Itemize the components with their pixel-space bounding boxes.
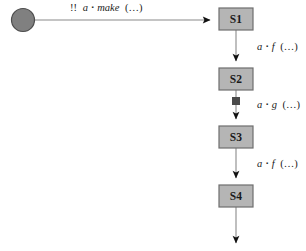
label-message: g xyxy=(272,99,277,110)
state-diagram: S1 S2 S3 S4 !! a ▪ make (…) a ▪ f (…) xyxy=(0,0,306,251)
label-separator-icon: ▪ xyxy=(266,160,268,166)
label-separator-icon: ▪ xyxy=(266,101,268,107)
initial-state-node[interactable] xyxy=(12,9,35,32)
label-args: (…) xyxy=(125,2,143,14)
label-separator-icon: ▪ xyxy=(266,43,268,49)
label-separator-icon: ▪ xyxy=(92,4,94,10)
diagram-canvas: S1 S2 S3 S4 !! a ▪ make (…) a ▪ f (…) xyxy=(0,0,306,251)
label-args: (…) xyxy=(283,99,301,111)
transition-label-s2-to-s3: a ▪ g (…) xyxy=(257,98,301,111)
transition-label-s3-to-s4: a ▪ f (…) xyxy=(257,157,298,170)
label-receiver: a xyxy=(257,158,262,169)
state-node-s4[interactable]: S4 xyxy=(219,185,253,207)
state-label: S1 xyxy=(230,13,243,25)
label-message: f xyxy=(272,41,277,52)
state-label: S2 xyxy=(230,73,243,85)
label-receiver: a xyxy=(257,99,262,110)
label-message: f xyxy=(272,158,277,169)
label-receiver: a xyxy=(83,2,88,13)
label-message: make xyxy=(97,2,119,13)
state-node-s3[interactable]: S3 xyxy=(219,126,253,148)
transition-stop-marker-icon xyxy=(232,97,240,105)
transition-label-s1-to-s2: a ▪ f (…) xyxy=(257,40,298,53)
transition-label-start-to-s1: !! a ▪ make (…) xyxy=(70,1,143,14)
state-node-s2[interactable]: S2 xyxy=(219,68,253,90)
state-label: S4 xyxy=(230,190,243,202)
label-args: (…) xyxy=(280,41,298,53)
label-args: (…) xyxy=(280,158,298,170)
transition-s2-to-s3 xyxy=(232,90,240,119)
label-prefix: !! xyxy=(70,2,77,13)
state-node-s1[interactable]: S1 xyxy=(219,8,253,30)
state-label: S3 xyxy=(230,131,243,143)
label-receiver: a xyxy=(257,41,262,52)
